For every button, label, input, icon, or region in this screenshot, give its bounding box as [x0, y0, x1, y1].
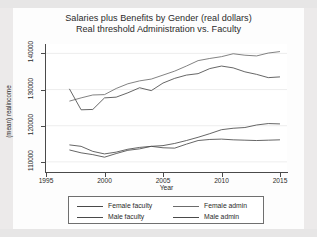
scan-noise-bottom: [0, 229, 317, 237]
x-tick-label: 2005: [156, 177, 171, 184]
y-tick: [41, 162, 45, 163]
legend-swatch-male-faculty: [77, 217, 103, 218]
legend-item-male-faculty[interactable]: Male faculty: [77, 211, 144, 223]
x-tick-label: 2010: [214, 177, 229, 184]
legend-row: Male faculty Male admin: [69, 211, 265, 223]
x-axis-title: Year: [46, 184, 287, 191]
y-tick: [41, 126, 45, 127]
y-tick-label: 130000: [27, 68, 34, 108]
chart-legend: Female faculty Female admin Male faculty…: [68, 196, 264, 224]
y-axis-title: (mean) realincome: [5, 48, 12, 176]
scan-noise-top: [0, 0, 317, 8]
y-axis-title-holder: (mean) realincome: [0, 44, 16, 172]
plot-area: [46, 44, 287, 172]
x-tick-label: 2015: [273, 177, 288, 184]
gridlines: [46, 53, 287, 161]
series-lines: [69, 52, 280, 158]
chart-title-block: Salaries plus Benefits by Gender (real d…: [13, 13, 304, 34]
x-tick-label: 1995: [39, 177, 54, 184]
y-axis-line: [45, 44, 46, 173]
y-tick: [41, 90, 45, 91]
chart-subtitle: Real threshold Administration vs. Facult…: [13, 24, 304, 35]
plot-svg: [46, 44, 287, 172]
legend-swatch-male-admin: [173, 217, 199, 218]
series-line-female-faculty: [69, 139, 280, 154]
legend-label-male-faculty: Male faculty: [108, 211, 144, 223]
y-tick-label: 110000: [27, 140, 34, 180]
legend-label-male-admin: Male admin: [204, 211, 239, 223]
chart-figure: Salaries plus Benefits by Gender (real d…: [0, 0, 317, 237]
y-tick: [41, 53, 45, 54]
chart-title: Salaries plus Benefits by Gender (real d…: [13, 13, 304, 24]
legend-item-male-admin[interactable]: Male admin: [173, 211, 239, 223]
series-line-female-admin: [69, 52, 280, 102]
x-tick-label: 2000: [97, 177, 112, 184]
y-tick-label: 140000: [27, 32, 34, 72]
series-line-male-admin: [69, 66, 280, 110]
legend-swatch-female-faculty: [77, 206, 103, 207]
legend-swatch-female-admin: [173, 206, 199, 207]
y-tick-label: 120000: [27, 104, 34, 144]
x-axis-line: [45, 172, 288, 173]
